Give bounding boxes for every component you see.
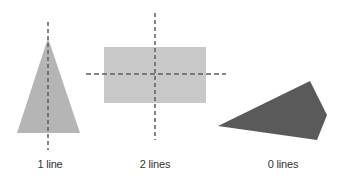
triangle-label: 1 line (37, 158, 62, 170)
irregular-quadrilateral (218, 81, 327, 140)
rectangle-label: 2 lines (140, 158, 170, 170)
quadrilateral-label: 0 lines (268, 158, 298, 170)
symmetry-diagram (0, 0, 340, 183)
